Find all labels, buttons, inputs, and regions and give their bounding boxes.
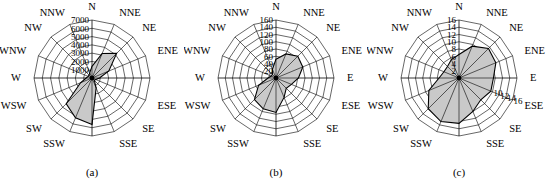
direction-label-ese: ESE: [342, 100, 361, 111]
direction-label-nnw: NNW: [40, 7, 65, 18]
center-hub: [274, 76, 279, 81]
direction-label-nnw: NNW: [224, 7, 249, 18]
rose-panel-b: NNNENEENEEESESESSESSWSWWSWWWNWNWNNW20406…: [184, 0, 368, 195]
direction-label-sse: SSE: [303, 138, 321, 149]
direction-label-nne: NNE: [303, 7, 325, 18]
direction-label-ssw: SSW: [227, 138, 249, 149]
center-hub: [90, 76, 95, 81]
direction-label-sse: SSE: [119, 138, 137, 149]
direction-label-nw: NW: [208, 22, 226, 33]
radial-tick-label-secondary: 16: [514, 96, 524, 106]
direction-label-ese: ESE: [158, 100, 177, 111]
direction-label-ne: NE: [326, 22, 340, 33]
direction-label-wnw: WNW: [0, 45, 26, 56]
direction-label-sw: SW: [26, 123, 42, 134]
direction-label-ene: ENE: [525, 45, 545, 56]
direction-label-n: N: [88, 1, 96, 12]
direction-label-w: W: [11, 72, 21, 83]
direction-label-wsw: WSW: [1, 100, 27, 111]
panel-caption-b: (b): [184, 166, 368, 178]
panel-caption-c: (c): [367, 166, 551, 178]
direction-label-ene: ENE: [342, 45, 362, 56]
direction-label-nnw: NNW: [407, 7, 432, 18]
direction-label-wsw: WSW: [185, 100, 211, 111]
direction-label-se: SE: [509, 123, 521, 134]
direction-label-ssw: SSW: [43, 138, 65, 149]
direction-label-wnw: WNW: [367, 45, 393, 56]
wind-rose-figure: NNNENEENEESESESSESSWSWWSWWWNWNWNNW100020…: [0, 0, 551, 195]
direction-label-ese: ESE: [525, 100, 544, 111]
direction-label-sse: SSE: [486, 138, 504, 149]
direction-label-n: N: [455, 1, 463, 12]
direction-label-nw: NW: [391, 22, 409, 33]
rose-chart-b: NNNENEENEEESESESSESSWSWWSWWWNWNWNNW20406…: [184, 0, 368, 178]
direction-label-sw: SW: [393, 123, 409, 134]
direction-label-w: W: [195, 72, 205, 83]
panel-caption-a: (a): [0, 166, 184, 178]
rose-panel-a: NNNENEENEESESESSESSWSWWSWWWNWNWNNW100020…: [0, 0, 184, 195]
radial-tick-label: 160: [260, 15, 274, 25]
radial-tick-label: 16: [447, 15, 457, 25]
rose-chart-c: NNNENEENEEESESESSESSWSWWSWWWNWNWNNW24681…: [367, 0, 551, 178]
direction-label-se: SE: [142, 123, 154, 134]
radial-tick-label: 7000: [71, 15, 90, 25]
center-hub: [457, 76, 462, 81]
data-polygon: [254, 54, 302, 113]
direction-label-ssw: SSW: [410, 138, 432, 149]
direction-label-nne: NNE: [486, 7, 508, 18]
direction-label-ne: NE: [509, 22, 523, 33]
direction-label-wnw: WNW: [184, 45, 210, 56]
rose-panel-c: NNNENEENEEESESESSESSWSWWSWWWNWNWNNW24681…: [367, 0, 551, 195]
direction-label-sw: SW: [210, 123, 226, 134]
direction-label-w: W: [378, 72, 388, 83]
direction-label-nw: NW: [24, 22, 42, 33]
direction-label-e: E: [347, 72, 353, 83]
direction-label-wsw: WSW: [368, 100, 394, 111]
direction-label-ene: ENE: [158, 45, 178, 56]
direction-label-se: SE: [326, 123, 338, 134]
direction-label-n: N: [272, 1, 280, 12]
direction-label-nne: NNE: [119, 7, 141, 18]
rose-chart-a: NNNENEENEESESESSESSWSWWSWWWNWNWNNW100020…: [0, 0, 184, 178]
direction-label-e: E: [530, 72, 536, 83]
direction-label-ne: NE: [142, 22, 156, 33]
